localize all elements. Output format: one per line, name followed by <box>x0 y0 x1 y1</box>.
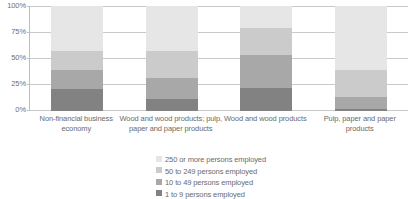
bar-segment <box>51 6 103 51</box>
legend-item[interactable]: 1 to 9 persons employed <box>156 185 245 196</box>
bar-segment <box>335 97 387 109</box>
bars-layer <box>30 6 408 111</box>
bar-column <box>146 6 198 111</box>
category-label: Non-financial business economy <box>26 114 126 134</box>
bar-segment <box>240 55 292 88</box>
bar-segment <box>146 99 198 111</box>
bar-segment <box>146 6 198 51</box>
stacked-bar-chart: 100% 75% 50% 25% 0% Non-financial busine… <box>0 0 411 199</box>
y-tick-label-50: 50% <box>0 54 26 62</box>
bar-segment <box>146 51 198 78</box>
bar-column <box>335 6 387 111</box>
bar-segment <box>240 28 292 55</box>
legend-item[interactable]: 50 to 249 persons employed <box>156 162 257 173</box>
bar-column <box>51 6 103 111</box>
bar-segment <box>51 51 103 70</box>
category-label: Wood and wood products <box>213 114 317 124</box>
chart-legend: 250 or more persons employed50 to 249 pe… <box>0 150 411 199</box>
y-axis: 100% 75% 50% 25% 0% <box>0 0 26 113</box>
bar-segment <box>51 70 103 89</box>
y-tick-label-75: 75% <box>0 28 26 36</box>
category-axis-labels: Non-financial business economyWood and w… <box>29 114 407 152</box>
category-label: Wood and wood products; pulp, paper and … <box>119 114 223 134</box>
plot-area <box>29 6 408 111</box>
y-tick-label-100: 100% <box>0 2 26 10</box>
bar-column <box>240 6 292 111</box>
legend-label: 1 to 9 persons employed <box>165 189 245 199</box>
bar-segment <box>335 6 387 70</box>
bar-segment <box>240 88 292 111</box>
category-label: Pulp, paper and paper products <box>312 114 408 134</box>
bar-segment <box>240 6 292 28</box>
bar-segment <box>335 109 387 111</box>
legend-swatch-icon <box>156 190 162 196</box>
bar-segment <box>146 78 198 99</box>
legend-item[interactable]: 10 to 49 persons employed <box>156 173 253 184</box>
bar-segment <box>51 89 103 111</box>
plot-wrapper: 100% 75% 50% 25% 0% <box>0 0 411 113</box>
y-tick-label-25: 25% <box>0 80 26 88</box>
legend-item[interactable]: 250 or more persons employed <box>156 150 266 161</box>
y-tick-label-0: 0% <box>0 106 26 114</box>
bar-segment <box>335 70 387 97</box>
